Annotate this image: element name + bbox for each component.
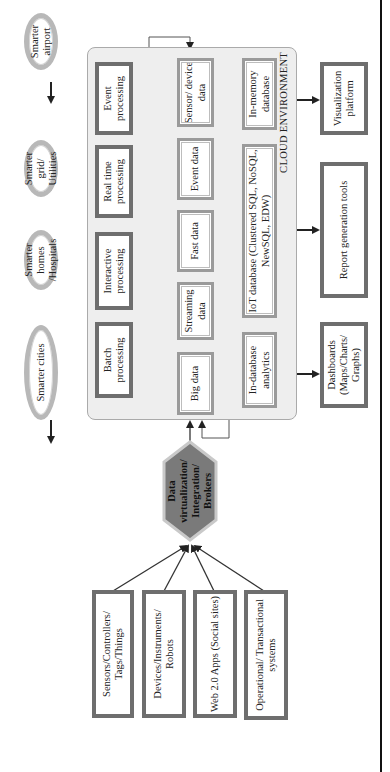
source-operational-systems: Operational/ Transactional systems (244, 590, 288, 720)
processing-batch: Batch processing (95, 322, 133, 398)
app-smarter-airport: Smarter airport (24, 13, 58, 70)
source-label: Web 2.0 Apps (Social sites) (209, 596, 221, 712)
data-event: Event data (177, 138, 214, 200)
iot-architecture-diagram: Sensors/Controllers/ Tags/Things Devices… (0, 0, 390, 772)
app-smarter-cities: Smarter cities (24, 325, 58, 420)
source-label: Devices/Instruments/ Robots (152, 594, 176, 714)
db-in-database-analytics: In-database analytics (242, 332, 277, 408)
db-in-memory: In-memory database (242, 58, 277, 130)
source-devices-instruments: Devices/Instruments/ Robots (142, 590, 186, 718)
output-visualization-platform: Visualization platform (320, 62, 368, 135)
broker-label: Data virtualization/ Integration/ Broker… (164, 450, 216, 532)
cloud-environment-label: CLOUD ENVIRONMENT (278, 52, 289, 212)
data-streaming: Streaming data (177, 282, 214, 340)
processing-event: Event processing (95, 62, 133, 135)
processing-interactive: Interactive processing (95, 232, 133, 310)
source-label: Operational/ Transactional systems (254, 594, 278, 716)
source-web-apps: Web 2.0 Apps (Social sites) (193, 590, 237, 718)
db-iot-database: IoT database (Clustered SQL, NoSQL, NewS… (242, 144, 277, 318)
output-report-generation: Report generation tools (320, 162, 368, 298)
processing-real-time: Real time processing (95, 145, 133, 218)
data-big-data: Big data (177, 352, 214, 415)
data-fast: Fast data (177, 210, 214, 272)
source-sensors-controllers: Sensors/Controllers/ Tags/Things (92, 590, 134, 718)
app-smarter-grid-utilities: Smarter grid/ Utilities (24, 140, 58, 197)
data-sensor-device: Sensor/ device data (177, 58, 214, 127)
app-smarter-homes-hospitals: Smarter homes /Hospitals (24, 230, 58, 290)
output-dashboards: Dashboards (Maps/Charts/ Graphs) (320, 322, 368, 408)
source-label: Sensors/Controllers/ Tags/Things (101, 594, 125, 714)
